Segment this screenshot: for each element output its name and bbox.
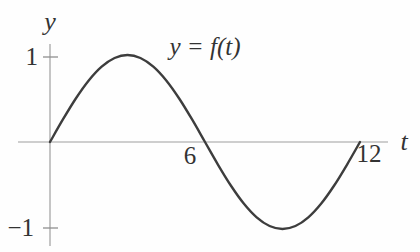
y-axis-label: y <box>41 7 56 36</box>
plot-canvas: y t 1 −1 6 12 y = f(t) <box>0 0 420 252</box>
sine-curve-figure: y t 1 −1 6 12 y = f(t) <box>0 0 420 252</box>
x-tick-label-6: 6 <box>184 142 197 169</box>
y-tick-label-plus1: 1 <box>26 43 39 70</box>
curve-equation-label: y = f(t) <box>166 33 240 61</box>
x-tick-label-12: 12 <box>357 140 382 167</box>
x-axis-label: t <box>400 127 408 156</box>
y-tick-label-minus1: −1 <box>7 214 34 241</box>
